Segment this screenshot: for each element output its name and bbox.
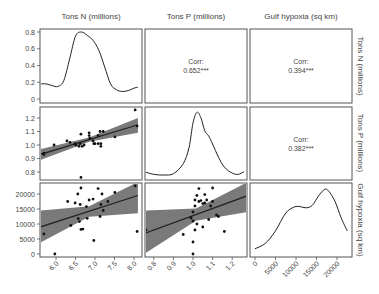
x-tick-label-p: 0.8 [146,260,158,272]
panel-r1-c1 [145,107,247,180]
data-point [85,205,88,208]
x-tick-label-n: 7.5 [106,260,118,272]
column-label-n: Tons N (millions) [61,12,120,21]
y-tick-label-p: 1.1 [25,128,35,135]
y-tick-label-density: 0.6 [25,45,35,52]
data-point [86,217,89,220]
data-point [205,199,208,202]
y-tick-label-density: 0 [31,96,35,103]
y-tick-label-p: 1.2 [25,115,35,122]
data-point [53,144,56,147]
data-point [134,185,137,188]
data-point [192,220,195,223]
column-label-hypoxia: Gulf hypoxia (sq km) [264,12,338,21]
data-point [97,134,100,137]
data-point [223,230,226,233]
corr-label: Corr: [188,58,204,65]
data-point [102,130,105,133]
data-point [106,200,109,203]
data-point [74,202,77,205]
data-point [89,137,92,140]
data-point [199,199,202,202]
data-point [92,140,95,143]
data-point [201,226,204,229]
y-tick-label-hypoxia: 10000 [16,221,36,228]
data-point [80,133,83,136]
data-point [80,176,83,179]
data-point [99,215,102,218]
data-point [92,198,95,201]
y-tick-label-density: 0.8 [25,29,35,36]
x-tick-label-p: 1.1 [204,260,216,272]
data-point [83,144,86,147]
panel-r2-c2 [250,183,352,257]
data-point [69,224,72,227]
panel-r1-c2 [250,107,352,180]
data-point [207,218,210,221]
row-label-hypoxia: Gulf hypoxia (sq km) [356,183,365,257]
y-tick-label-density: 0.2 [25,79,35,86]
panel-r0-c2 [250,29,352,103]
data-point [194,205,197,208]
row-label-n: Tons N (millions) [356,36,365,95]
x-tick-label-n: 8.0 [126,260,138,272]
x-tick-label-hypoxia: 5000 [263,260,279,276]
data-point [88,199,91,202]
data-point [196,223,199,226]
data-point [102,209,105,212]
data-point [101,193,104,196]
y-tick-label-hypoxia: 0 [31,251,35,258]
data-point [74,144,77,147]
data-point [197,187,200,190]
data-point [192,241,195,244]
x-tick-label-n: 7.0 [87,260,99,272]
data-point [43,153,46,156]
y-tick-label-hypoxia: 20000 [16,191,36,198]
pairs-plot: Tons N (millions) Tons P (millions) Gulf… [0,0,379,294]
corr-label: Corr: [293,136,309,143]
data-point [203,202,206,205]
data-point [136,230,139,233]
data-point [209,205,212,208]
corr-value: 0.652*** [183,67,209,74]
data-point [203,193,206,196]
data-point [134,109,137,112]
row-label-p: Tons P (millions) [356,114,365,173]
data-point [92,239,95,242]
data-point [97,187,100,190]
column-label-p: Tons P (millions) [167,12,226,21]
data-point [196,194,199,197]
y-tick-label-hypoxia: 5000 [19,236,35,243]
data-point [194,199,197,202]
data-point [217,215,220,218]
data-point [79,203,82,206]
data-point [79,142,82,145]
data-point [66,200,69,203]
data-point [43,233,46,236]
data-point [94,142,97,145]
data-point [192,253,195,256]
data-point [53,253,56,256]
y-tick-label-p: 0.9 [25,155,35,162]
corr-value: 0.382*** [288,145,314,152]
data-point [113,136,116,139]
x-tick-label-hypoxia: 10000 [281,260,300,279]
x-tick-label-p: 1.2 [224,260,236,272]
data-point [78,145,81,148]
data-point [88,134,91,137]
x-tick-label-hypoxia: 20000 [322,260,341,279]
y-tick-label-hypoxia: 15000 [16,206,36,213]
corr-value: 0.394*** [288,67,314,74]
y-tick-label-p: 1.0 [25,142,35,149]
x-tick-label-n: 6.5 [67,260,79,272]
data-point [80,187,83,190]
x-tick-label-hypoxia: 15000 [301,260,320,279]
data-point [88,131,91,134]
data-point [78,220,81,223]
data-point [66,140,69,143]
data-point [99,203,102,206]
data-point [192,211,195,214]
data-point [99,145,102,148]
data-point [182,233,185,236]
data-point [211,187,214,190]
